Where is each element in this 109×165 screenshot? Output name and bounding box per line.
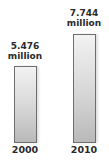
- data-label-2000: 5.476 million: [3, 41, 47, 61]
- data-label-2010: 7.744 million: [62, 8, 106, 28]
- x-tick-label-2000: 2000: [5, 144, 45, 155]
- data-label-unit: million: [3, 51, 47, 61]
- data-label-value: 7.744: [62, 8, 106, 18]
- data-label-unit: million: [62, 18, 106, 28]
- x-tick-label-2010: 2010: [64, 144, 104, 155]
- data-label-value: 5.476: [3, 41, 47, 51]
- bar-2010: [73, 34, 96, 143]
- bar-2000: [14, 66, 37, 143]
- bar-chart: 5.476 million 7.744 million 2000 2010: [0, 0, 109, 165]
